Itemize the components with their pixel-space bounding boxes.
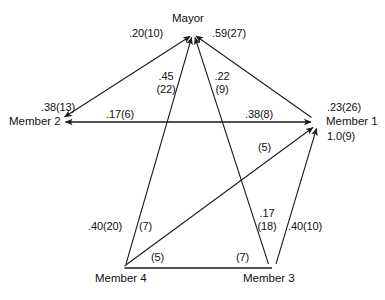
edge-label-member4-to-mayor-line1: .45 — [155, 70, 177, 82]
edge-label-member4-to-member1: (5) — [258, 141, 271, 153]
edge-member4-to-member1 — [125, 128, 314, 267]
node-stat-member1-secondary: 1.0(9) — [327, 130, 355, 142]
edge-label-member3-to-member1-line1: .17 — [256, 207, 278, 219]
edge-label-bottom-right: (7) — [236, 251, 249, 263]
edge-label-member2-to-mayor: .20(10) — [129, 27, 163, 39]
node-label-mayor: Mayor — [172, 12, 204, 25]
edge-label-member2-to-member1: .38(8) — [245, 108, 273, 120]
node-label-member3: Member 3 — [243, 272, 295, 285]
node-label-member4: Member 4 — [95, 272, 147, 285]
edge-member3-to-member1 — [276, 129, 317, 265]
edge-label-member1-to-member2: .17(6) — [106, 108, 134, 120]
edge-label-member4-inner: (7) — [139, 220, 152, 232]
node-stat-member2: .38(13) — [41, 101, 75, 113]
sociogram-diagram: Mayor Member 1 Member 2 Member 3 Member … — [0, 0, 385, 300]
edge-label-member1-to-mayor: .59(27) — [212, 27, 246, 39]
edge-label-member3-to-member1-line2: (18) — [253, 220, 281, 232]
node-label-member2: Member 2 — [9, 115, 61, 128]
edge-label-member3-right: .40(10) — [288, 220, 322, 232]
edge-label-member3-to-mayor-line2: (9) — [210, 83, 234, 95]
network-graph-svg — [0, 0, 385, 300]
node-stat-member1-primary: .23(26) — [327, 101, 361, 113]
node-label-member1: Member 1 — [326, 115, 378, 128]
edge-label-bottom-left: (5) — [151, 251, 164, 263]
edge-label-member4-to-mayor-line2: (22) — [152, 83, 180, 95]
edge-label-member3-to-mayor-line1: .22 — [211, 70, 233, 82]
edge-label-member4-left: .40(20) — [88, 220, 122, 232]
